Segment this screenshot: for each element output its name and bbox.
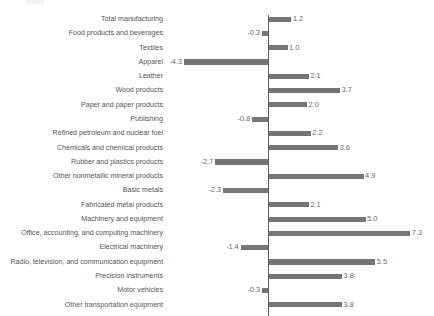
value-label: 2.1: [310, 69, 320, 83]
bar: [268, 231, 410, 236]
bar-row: Fabricated metal products2.1: [0, 198, 434, 212]
bar: [252, 117, 268, 122]
bar: [268, 45, 288, 50]
bar: [223, 188, 268, 193]
category-label: Office, accounting, and computing machin…: [0, 226, 163, 240]
value-label: 1.0: [289, 41, 299, 55]
category-label: Chemicals and chemical products: [0, 141, 163, 155]
bar: [268, 88, 340, 93]
category-label: Precision instruments: [0, 269, 163, 283]
category-label: Paper and paper products: [0, 98, 163, 112]
bar-row: Office, accounting, and computing machin…: [0, 226, 434, 240]
bar: [268, 174, 364, 179]
category-label: Furniture; other manufacturing: [0, 312, 163, 316]
category-label: Basic metals: [0, 183, 163, 197]
bar: [268, 74, 309, 79]
bar-row: Motor vehicles-0.3: [0, 283, 434, 297]
value-label: 7.3: [412, 226, 422, 240]
category-label: Radio, television, and communication equ…: [0, 255, 163, 269]
category-label: Apparel: [0, 55, 163, 69]
category-label: Electrical machinery: [0, 240, 163, 254]
bar-chart: Total manufacturing1.2Food products and …: [0, 0, 434, 316]
bar: [268, 217, 366, 222]
value-label: 1.3: [295, 312, 305, 316]
bar-row: Radio, television, and communication equ…: [0, 255, 434, 269]
bar-row: Total manufacturing1.2: [0, 12, 434, 26]
category-label: Textiles: [0, 41, 163, 55]
zero-axis-line: [268, 15, 269, 316]
category-label: Fabricated metal products: [0, 198, 163, 212]
category-label: Leather: [0, 69, 163, 83]
value-label: 5.0: [367, 212, 377, 226]
bar-row: Precision instruments3.8: [0, 269, 434, 283]
value-label: 3.6: [340, 141, 350, 155]
bar-row: Electrical machinery-1.4: [0, 240, 434, 254]
value-label: -1.4: [226, 240, 239, 254]
value-label: 3.8: [344, 298, 354, 312]
value-label: 2.1: [310, 198, 320, 212]
value-label: -2.7: [201, 155, 214, 169]
category-label: Food products and beverages: [0, 26, 163, 40]
value-label: 1.2: [293, 12, 303, 26]
category-label: Refined petroleum and nuclear fuel: [0, 126, 163, 140]
category-label: Rubber and plastics products: [0, 155, 163, 169]
category-label: Wood products: [0, 83, 163, 97]
bar-row: Textiles1.0: [0, 41, 434, 55]
category-label: Other transportation equipment: [0, 298, 163, 312]
bar-row: Wood products3.7: [0, 83, 434, 97]
bar: [268, 202, 309, 207]
bar-row: Other nonmetallic mineral products4.9: [0, 169, 434, 183]
bar-row: Leather2.1: [0, 69, 434, 83]
value-label: -0.3: [247, 26, 260, 40]
bar: [268, 131, 311, 136]
category-label: Machinery and equipment: [0, 212, 163, 226]
bar-row: Basic metals-2.3: [0, 183, 434, 197]
bar-row: Rubber and plastics products-2.7: [0, 155, 434, 169]
bar-row: Other transportation equipment3.8: [0, 298, 434, 312]
value-label: -0.3: [247, 283, 260, 297]
bar: [268, 302, 342, 307]
value-label: 2.2: [312, 126, 322, 140]
bar: [268, 17, 291, 22]
bar-row: Chemicals and chemical products3.6: [0, 141, 434, 155]
value-label: 2.0: [309, 98, 319, 112]
category-label: Total manufacturing: [0, 12, 163, 26]
bar: [268, 274, 342, 279]
value-label: -2.3: [208, 183, 221, 197]
bar-row: Apparel-4.3: [0, 55, 434, 69]
bar: [241, 245, 268, 250]
value-label: -0.8: [238, 112, 251, 126]
category-label: Motor vehicles: [0, 283, 163, 297]
bar-row: Food products and beverages-0.3: [0, 26, 434, 40]
value-label: 5.5: [377, 255, 387, 269]
bar-row: Publishing-0.8: [0, 112, 434, 126]
value-label: 3.8: [344, 269, 354, 283]
bar-row: Paper and paper products2.0: [0, 98, 434, 112]
bar: [268, 102, 307, 107]
bar-row: Furniture; other manufacturing1.3: [0, 312, 434, 316]
category-label: Publishing: [0, 112, 163, 126]
category-label: Other nonmetallic mineral products: [0, 169, 163, 183]
plot-area: Total manufacturing1.2Food products and …: [0, 0, 434, 316]
value-label: 3.7: [342, 83, 352, 97]
bar: [215, 159, 268, 164]
bar-row: Machinery and equipment5.0: [0, 212, 434, 226]
value-label: 4.9: [365, 169, 375, 183]
bar: [268, 259, 375, 264]
bar: [268, 145, 338, 150]
bar-row: Refined petroleum and nuclear fuel2.2: [0, 126, 434, 140]
bar: [184, 59, 268, 64]
value-label: -4.3: [169, 55, 182, 69]
